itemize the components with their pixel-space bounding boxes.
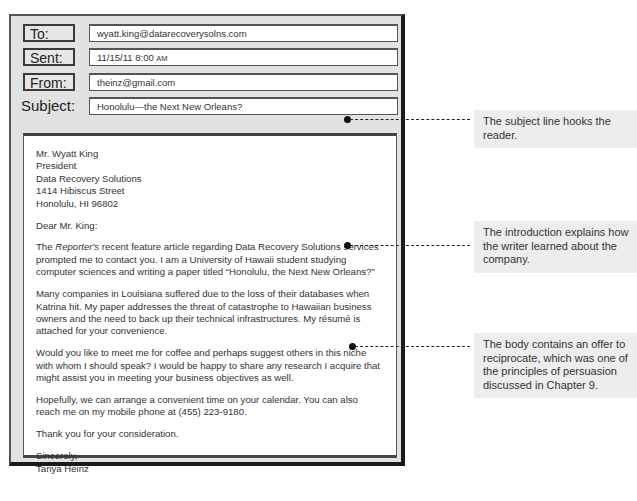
body-paragraph-2: Many companies in Louisiana suffered due… bbox=[36, 288, 384, 338]
publication-name: Reporter's bbox=[55, 241, 99, 252]
annotation-subject: The subject line hooks the reader. bbox=[474, 110, 637, 148]
body-paragraph-5: Thank you for your consideration. bbox=[36, 428, 384, 440]
sent-field[interactable]: 11/15/11 8:00 AM bbox=[89, 48, 398, 66]
signature: Tanya Heinz bbox=[36, 463, 384, 475]
from-label: From: bbox=[23, 73, 75, 91]
intro-connector-line bbox=[350, 245, 470, 246]
to-field[interactable]: wyatt.king@datarecoverysolns.com bbox=[89, 24, 398, 42]
address-line: Mr. Wyatt King bbox=[36, 148, 384, 160]
subject-label: Subject: bbox=[21, 98, 73, 116]
intro-paragraph: The Reporter's recent feature article re… bbox=[36, 241, 384, 278]
body-paragraph-3: Would you like to meet me for coffee and… bbox=[36, 347, 384, 384]
address-line: Data Recovery Solutions bbox=[36, 173, 384, 185]
sent-date: 11/15/11 8:00 bbox=[97, 52, 154, 63]
body-connector-line bbox=[355, 346, 470, 347]
from-field[interactable]: theinz@gmail.com bbox=[89, 73, 398, 91]
body-paragraph-4: Hopefully, we can arrange a convenient t… bbox=[36, 394, 384, 419]
sent-ampm: AM bbox=[156, 54, 167, 63]
address-line: 1414 Hibiscus Street bbox=[36, 185, 384, 197]
message-body[interactable]: Mr. Wyatt King President Data Recovery S… bbox=[23, 133, 397, 458]
sent-label: Sent: bbox=[23, 48, 75, 66]
intro-prefix: The bbox=[36, 241, 55, 252]
to-label: To: bbox=[23, 24, 75, 42]
annotation-introduction: The introduction explains how the writer… bbox=[474, 221, 637, 273]
inside-address: Mr. Wyatt King President Data Recovery S… bbox=[36, 148, 384, 210]
annotation-body: The body contains an offer to reciprocat… bbox=[474, 333, 637, 398]
address-line: Honolulu, HI 96802 bbox=[36, 198, 384, 210]
closing: Sincerely, bbox=[36, 450, 384, 462]
email-window-frame: To: wyatt.king@datarecoverysolns.com Sen… bbox=[9, 14, 405, 466]
address-line: President bbox=[36, 160, 384, 172]
subject-connector-line bbox=[350, 119, 470, 120]
salutation: Dear Mr. King: bbox=[36, 220, 384, 232]
subject-field[interactable]: Honolulu—the Next New Orleans? bbox=[89, 97, 398, 115]
